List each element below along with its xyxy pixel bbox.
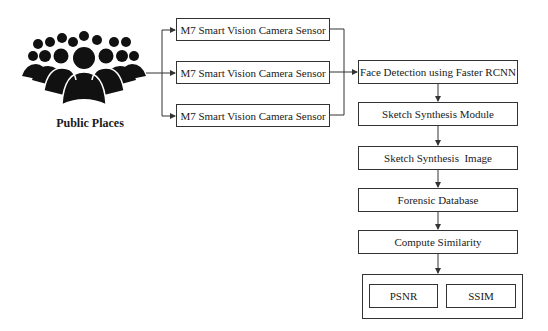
face-detection-label: Face Detection using Faster RCNN [360,66,516,78]
psnr-label: PSNR [390,290,418,302]
sketch-synthesis-module-label: Sketch Synthesis Module [382,108,494,120]
sketch-synthesis-image-label: Sketch Synthesis Image [384,152,492,164]
crowd-icon [22,28,146,108]
camera-sensor-box-3[interactable]: M7 Smart Vision Camera Sensor [176,104,330,127]
camera-sensor-box-2[interactable]: M7 Smart Vision Camera Sensor [176,61,330,84]
compute-similarity-label: Compute Similarity [394,236,481,248]
forensic-database-label: Forensic Database [398,194,479,206]
public-places-label: Public Places [40,116,140,131]
sketch-synthesis-module-box[interactable]: Sketch Synthesis Module [358,102,518,126]
camera-sensor-label: M7 Smart Vision Camera Sensor [180,67,325,79]
face-detection-box[interactable]: Face Detection using Faster RCNN [358,60,518,84]
sketch-synthesis-image-box[interactable]: Sketch Synthesis Image [358,146,518,170]
compute-similarity-box[interactable]: Compute Similarity [358,230,518,254]
ssim-box[interactable]: SSIM [446,284,516,308]
ssim-label: SSIM [468,290,494,302]
camera-sensor-label: M7 Smart Vision Camera Sensor [180,110,325,122]
camera-sensor-label: M7 Smart Vision Camera Sensor [180,24,325,36]
psnr-box[interactable]: PSNR [369,284,438,308]
forensic-database-box[interactable]: Forensic Database [358,188,518,212]
camera-sensor-box-1[interactable]: M7 Smart Vision Camera Sensor [176,18,330,41]
